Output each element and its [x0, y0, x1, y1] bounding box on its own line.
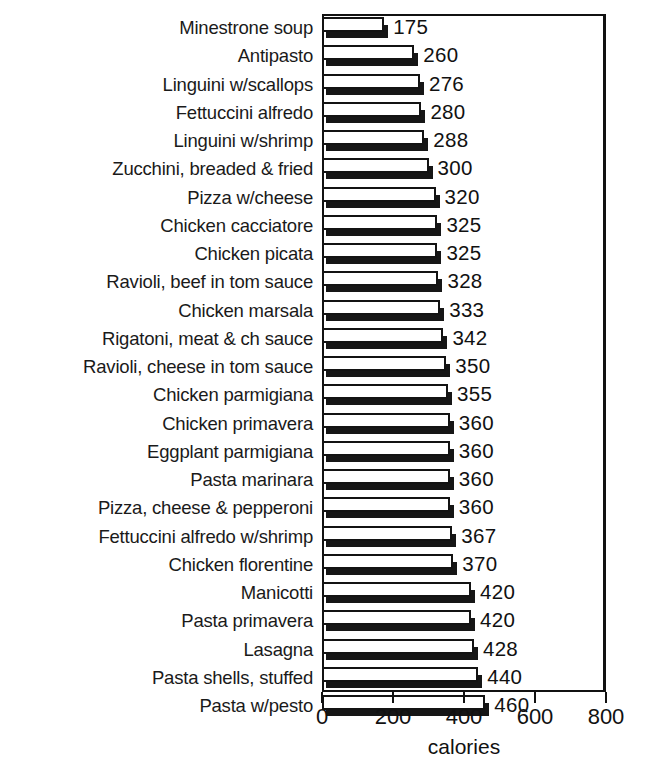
bar-value-label: 420: [480, 578, 515, 606]
bar: [322, 441, 450, 456]
bar-row: 370: [322, 551, 606, 579]
bar: [322, 328, 443, 343]
category-label: Chicken parmigiana: [0, 381, 318, 409]
bar: [322, 130, 424, 145]
bar-row: 276: [322, 71, 606, 99]
category-label: Chicken primavera: [0, 410, 318, 438]
category-label: Zucchini, breaded & fried: [0, 155, 318, 183]
bar-row: 350: [322, 353, 606, 381]
category-label: Chicken florentine: [0, 551, 318, 579]
bar-value-label: 175: [393, 13, 428, 41]
bar-value-label: 280: [430, 98, 465, 126]
bar: [322, 102, 421, 117]
bar: [322, 610, 471, 625]
category-label: Eggplant parmigiana: [0, 438, 318, 466]
bar: [322, 639, 474, 654]
bar-value-label: 440: [487, 663, 522, 691]
bar: [322, 526, 452, 541]
calories-bar-chart: Minestrone soupAntipastoLinguini w/scall…: [0, 0, 645, 768]
bar-rows-layer: 1752602762802883003203253253283333423503…: [322, 14, 606, 692]
bar-value-label: 360: [459, 493, 494, 521]
x-axis-tick: [534, 692, 537, 703]
category-label: Pasta primavera: [0, 607, 318, 635]
category-label: Antipasto: [0, 42, 318, 70]
bar-row: 325: [322, 212, 606, 240]
bar: [322, 469, 450, 484]
bar-row: 260: [322, 42, 606, 70]
category-label: Rigatoni, meat & ch sauce: [0, 325, 318, 353]
bar-row: 175: [322, 14, 606, 42]
bar-value-label: 360: [459, 465, 494, 493]
bar-value-label: 360: [459, 437, 494, 465]
x-axis-tick: [321, 692, 324, 703]
bar-row: 328: [322, 268, 606, 296]
x-axis-tick-label: 200: [375, 704, 412, 730]
bar: [322, 356, 446, 371]
category-label: Ravioli, cheese in tom sauce: [0, 353, 318, 381]
bar-row: 342: [322, 325, 606, 353]
bar-row: 360: [322, 438, 606, 466]
category-label: Chicken marsala: [0, 297, 318, 325]
category-label: Pizza w/cheese: [0, 184, 318, 212]
bar-value-label: 288: [433, 126, 468, 154]
bar-value-label: 325: [446, 211, 481, 239]
bar-row: 360: [322, 410, 606, 438]
bar-value-label: 367: [461, 522, 496, 550]
x-axis-tick: [605, 692, 608, 703]
bar-row: 367: [322, 523, 606, 551]
bar: [322, 243, 437, 258]
bar-value-label: 260: [423, 41, 458, 69]
bar: [322, 187, 436, 202]
x-axis-tick-label: 800: [588, 704, 625, 730]
bar-row: 420: [322, 607, 606, 635]
bar: [322, 554, 453, 569]
x-axis-tick: [463, 692, 466, 703]
x-axis-tick: [392, 692, 395, 703]
category-label: Linguini w/scallops: [0, 71, 318, 99]
bar: [322, 413, 450, 428]
x-axis-tick-label: 0: [316, 704, 328, 730]
bar: [322, 17, 384, 32]
category-label: Minestrone soup: [0, 14, 318, 42]
bar-row: 320: [322, 184, 606, 212]
bar-value-label: 360: [459, 409, 494, 437]
bar-value-label: 428: [483, 635, 518, 663]
bar-row: 300: [322, 155, 606, 183]
category-label: Fettuccini alfredo: [0, 99, 318, 127]
bar: [322, 158, 429, 173]
bar: [322, 271, 438, 286]
bar-row: 280: [322, 99, 606, 127]
bar-row: 428: [322, 636, 606, 664]
bar-value-label: 325: [446, 239, 481, 267]
bar: [322, 300, 440, 315]
x-axis-tick-label: 400: [446, 704, 483, 730]
category-label: Lasagna: [0, 636, 318, 664]
bar-row: 420: [322, 579, 606, 607]
bar-value-label: 276: [429, 70, 464, 98]
bar-value-label: 333: [449, 296, 484, 324]
category-label: Chicken picata: [0, 240, 318, 268]
category-label-column: Minestrone soupAntipastoLinguini w/scall…: [0, 14, 318, 720]
chart-title-cropped: [0, 0, 645, 11]
category-label: Pizza, cheese & pepperoni: [0, 494, 318, 522]
bar-value-label: 342: [452, 324, 487, 352]
bar-value-label: 370: [462, 550, 497, 578]
x-axis-title: calories: [322, 734, 606, 760]
bar-value-label: 320: [445, 183, 480, 211]
category-label: Pasta w/pesto: [0, 692, 318, 720]
bar: [322, 215, 437, 230]
bar-row: 440: [322, 664, 606, 692]
category-label: Linguini w/shrimp: [0, 127, 318, 155]
bar-row: 360: [322, 494, 606, 522]
bar-row: 360: [322, 466, 606, 494]
bar: [322, 45, 414, 60]
bar-value-label: 328: [447, 267, 482, 295]
category-label: Ravioli, beef in tom sauce: [0, 268, 318, 296]
bar-value-label: 350: [455, 352, 490, 380]
bar-value-label: 300: [438, 154, 473, 182]
bar: [322, 384, 448, 399]
bar-row: 325: [322, 240, 606, 268]
x-axis: calories 0200400600800: [322, 692, 606, 768]
category-label: Chicken cacciatore: [0, 212, 318, 240]
bar-row: 333: [322, 297, 606, 325]
